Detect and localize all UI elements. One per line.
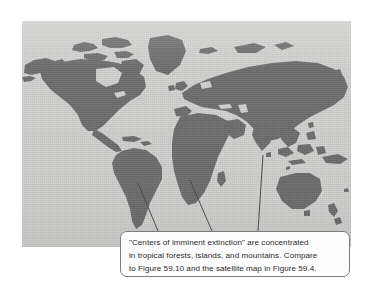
landmass-ireland	[168, 85, 175, 91]
landmass-novaya-zemlya	[234, 43, 266, 53]
landmass-fiji	[344, 188, 349, 192]
caption-callout-box: "Centers of imminent extinction" are con…	[120, 231, 350, 277]
landmass-new-zealand-south	[334, 217, 342, 225]
figure-root: "Centers of imminent extinction" are con…	[0, 0, 370, 286]
landmass-borneo	[297, 144, 314, 155]
landmass-arctic-islands	[72, 42, 98, 52]
landmass-north-america	[40, 59, 146, 131]
world-map-panel	[22, 21, 351, 247]
landmass-taiwan	[308, 122, 314, 128]
landmass-caribbean	[122, 136, 142, 142]
landmass-sulawesi	[316, 146, 326, 155]
landmass-pacific-islands	[286, 166, 290, 170]
landmass-arctic-islands-4	[114, 51, 134, 58]
landmass-svalbard	[199, 47, 218, 54]
landmass-new-guinea	[322, 154, 348, 164]
landmass-british-isles	[175, 81, 188, 91]
landmass-sumatra	[278, 147, 294, 157]
landmass-arctic-ru	[274, 42, 294, 50]
landmass-philippines	[306, 131, 316, 140]
landmass-indochina	[280, 127, 300, 147]
landmass-australia	[276, 173, 322, 209]
landmass-south-america	[112, 148, 162, 229]
landmass-tasmania	[304, 210, 310, 216]
landmass-java	[288, 159, 306, 165]
caption-text: "Centers of imminent extinction" are con…	[129, 236, 342, 276]
landmass-aleutian	[22, 76, 36, 82]
landmass-greenland	[148, 35, 186, 75]
landmass-hispaniola	[140, 141, 152, 146]
landmass-central-america	[92, 129, 122, 152]
landmass-layer	[22, 21, 351, 247]
landmass-africa	[172, 113, 230, 205]
landmass-sri-lanka	[266, 152, 271, 157]
landmass-arctic-islands-2	[102, 37, 132, 48]
landmass-new-zealand	[328, 203, 338, 217]
landmass-india	[252, 125, 274, 151]
landmass-madagascar	[217, 171, 226, 187]
